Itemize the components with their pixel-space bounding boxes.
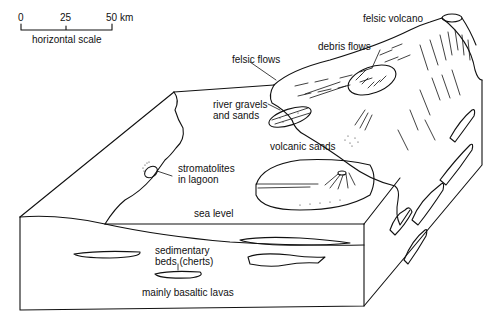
debris-flows bbox=[305, 59, 400, 101]
label-sea-level: sea level bbox=[194, 208, 233, 219]
side-lenses bbox=[390, 110, 475, 264]
volcanic-island bbox=[256, 160, 374, 210]
label-sedimentary-2: beds (cherts) bbox=[155, 256, 213, 267]
scale-tick-0: 0 bbox=[18, 12, 24, 23]
label-river-gravels-2: and sands bbox=[213, 110, 259, 121]
volcanic-sand-fan bbox=[344, 110, 372, 147]
label-basaltic-lavas: mainly basaltic lavas bbox=[142, 287, 234, 298]
stromatolite-lagoon bbox=[142, 161, 172, 180]
scale-tick-25: 25 bbox=[60, 12, 71, 23]
scale-tick-50: 50 km bbox=[106, 12, 133, 23]
scale-bar bbox=[21, 24, 112, 30]
block-diagram bbox=[0, 0, 495, 320]
label-felsic-volcano: felsic volcano bbox=[363, 13, 423, 24]
volcanic-land bbox=[270, 14, 482, 225]
label-stromatolites-2: in lagoon bbox=[178, 174, 219, 185]
label-sedimentary-1: sedimentary bbox=[155, 245, 209, 256]
label-volcanic-sands: volcanic sands bbox=[270, 141, 336, 152]
scale-label: horizontal scale bbox=[32, 34, 101, 45]
label-felsic-flows: felsic flows bbox=[232, 54, 280, 65]
label-debris-flows: debris flows bbox=[318, 41, 371, 52]
label-stromatolites-1: stromatolites bbox=[178, 163, 235, 174]
label-river-gravels-1: river gravels bbox=[213, 99, 267, 110]
